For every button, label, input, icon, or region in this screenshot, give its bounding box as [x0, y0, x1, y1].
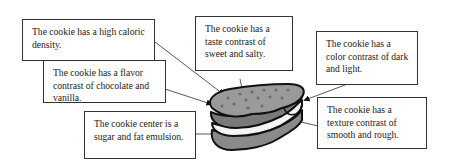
callout-taste: The cookie has a taste contrast of sweet…	[195, 16, 293, 71]
callout-text: The cookie center is a sugar and fat emu…	[94, 118, 184, 142]
callout-text: The cookie has a color contrast of dark …	[326, 38, 408, 74]
callout-text: The cookie has a texture contrast of smo…	[327, 104, 399, 140]
callout-center: The cookie center is a sugar and fat emu…	[84, 111, 196, 159]
callout-text: The cookie has a flavor contrast of choc…	[53, 67, 149, 103]
callout-text: The cookie has a taste contrast of sweet…	[205, 23, 270, 59]
callout-flavor: The cookie has a flavor contrast of choc…	[43, 60, 166, 103]
callout-text: The cookie has a high caloric density.	[32, 26, 145, 50]
callout-caloric: The cookie has a high caloric density.	[22, 19, 155, 61]
callout-color: The cookie has a color contrast of dark …	[316, 31, 418, 85]
callout-texture: The cookie has a texture contrast of smo…	[317, 97, 427, 149]
